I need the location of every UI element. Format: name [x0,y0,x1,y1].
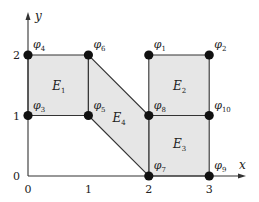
y-tick-label: 1 [13,110,20,123]
mesh-svg: x y 0123012 E1E2E3E4 φ1φ2φ3φ4φ5φ6φ7φ8φ9φ… [0,0,259,202]
node-label-phi2: φ2 [214,38,226,53]
node-label-phi6: φ6 [93,38,106,53]
node-label-phi4: φ4 [33,38,46,53]
y-tick-label: 2 [13,49,20,62]
node-phi1-dot [144,50,153,59]
x-axis-arrowhead-icon [238,174,246,179]
x-tick-label: 1 [85,183,92,196]
node-phi7-dot [144,171,153,180]
node-phi2-dot [205,50,214,59]
y-axis-arrowhead-icon [26,12,31,20]
node-phi10-dot [205,111,214,120]
node-phi3-dot [23,111,32,120]
y-axis-label: y [34,9,42,23]
node-label-phi9: φ9 [214,159,226,174]
node-phi4-dot [23,50,32,59]
node-phi5-dot [84,111,93,120]
x-tick-label: 3 [206,183,213,196]
x-axis-label: x [239,158,246,172]
node-label-phi10: φ10 [214,99,231,114]
node-label-phi1: φ1 [154,38,166,53]
y-tick-label: 0 [13,170,20,183]
node-phi8-dot [144,111,153,120]
node-phi6-dot [84,50,93,59]
finite-element-mesh-diagram: x y 0123012 E1E2E3E4 φ1φ2φ3φ4φ5φ6φ7φ8φ9φ… [0,0,259,202]
node-phi9-dot [205,171,214,180]
x-tick-label: 2 [145,183,152,196]
x-tick-label: 0 [25,183,32,196]
